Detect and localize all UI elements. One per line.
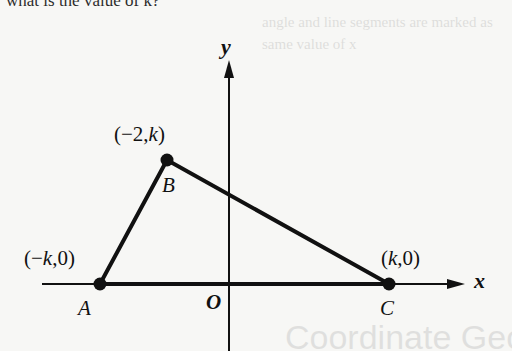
triangle-abc bbox=[100, 160, 389, 284]
y-axis-arrow-icon bbox=[224, 60, 234, 78]
origin-label: O bbox=[206, 292, 221, 313]
x-axis-label: x bbox=[474, 270, 485, 292]
point-a-label: A bbox=[78, 298, 91, 319]
point-b-label: B bbox=[162, 175, 175, 196]
point-a-coordinates: (−k,0) bbox=[24, 248, 75, 269]
point-b-dot bbox=[161, 154, 174, 167]
point-c-dot bbox=[383, 278, 396, 291]
coordinate-diagram bbox=[0, 0, 512, 351]
segment-ab bbox=[100, 160, 167, 284]
point-c-label: C bbox=[380, 298, 394, 319]
point-b-coordinates: (−2,k) bbox=[114, 124, 165, 145]
x-axis-arrow-icon bbox=[447, 279, 465, 289]
point-c-coordinates: (k,0) bbox=[381, 248, 420, 269]
segment-bc bbox=[167, 160, 389, 284]
point-a-dot bbox=[94, 278, 107, 291]
y-axis-label: y bbox=[221, 36, 231, 58]
y-axis bbox=[224, 60, 234, 351]
